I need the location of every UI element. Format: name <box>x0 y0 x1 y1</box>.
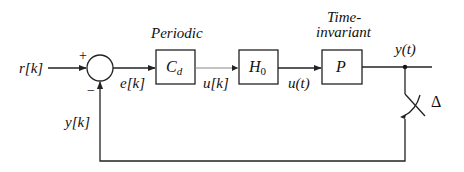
plant-annotation-line2: invariant <box>316 24 372 40</box>
sampler-switch <box>400 94 425 119</box>
summing-junction <box>87 55 113 81</box>
minus-sign: − <box>87 83 95 98</box>
edge-feedback <box>100 82 405 161</box>
signal-label-y-k: y[k] <box>63 114 90 130</box>
signal-label-y-t: y(t) <box>393 41 416 58</box>
plant-label: P <box>335 58 346 75</box>
arrowhead <box>232 65 238 71</box>
signal-label-r-k: r[k] <box>19 60 43 76</box>
controller-annotation: Periodic <box>150 25 203 41</box>
block-diagram: r[k] + − e[k] Periodic Cd u[k] H0 u(t) T… <box>0 0 464 172</box>
plant-annotation-line1: Time- <box>327 9 361 25</box>
plus-sign: + <box>79 48 87 63</box>
sampler-label: Δ <box>431 93 441 110</box>
signal-label-u-k: u[k] <box>203 75 229 91</box>
signal-label-u-t: u(t) <box>288 75 310 92</box>
signal-label-e-k: e[k] <box>120 75 145 91</box>
